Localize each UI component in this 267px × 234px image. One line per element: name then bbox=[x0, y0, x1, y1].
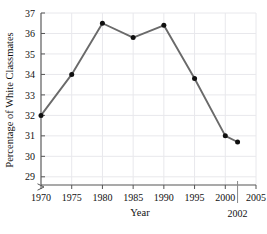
data-point-1990 bbox=[161, 23, 166, 28]
x-tick-label-1970: 1970 bbox=[31, 192, 51, 203]
line-chart: 293031323334353637 197019751980198519901… bbox=[0, 0, 267, 234]
x-tick-label-2000: 2000 bbox=[215, 192, 235, 203]
data-point-1975 bbox=[69, 72, 74, 77]
y-tick-label-31: 31 bbox=[25, 130, 35, 141]
chart-canvas: 293031323334353637 197019751980198519901… bbox=[0, 0, 267, 234]
y-axis-tick-labels: 293031323334353637 bbox=[25, 8, 35, 183]
x-tick-label-1990: 1990 bbox=[154, 192, 174, 203]
x-tick-label-1985: 1985 bbox=[123, 192, 143, 203]
data-point-2000 bbox=[223, 133, 228, 138]
y-tick-label-36: 36 bbox=[25, 28, 35, 39]
y-tick-label-33: 33 bbox=[25, 90, 35, 101]
data-point-1985 bbox=[131, 35, 136, 40]
y-tick-label-34: 34 bbox=[25, 69, 35, 80]
x-tick-label-2005: 2005 bbox=[246, 192, 266, 203]
data-point-1995 bbox=[192, 76, 197, 81]
data-point-1970 bbox=[39, 113, 44, 118]
data-point-2002 bbox=[235, 140, 240, 145]
x-axis-title: Year bbox=[130, 207, 150, 218]
y-tick-label-30: 30 bbox=[25, 151, 35, 162]
x-tick-label-1995: 1995 bbox=[185, 192, 205, 203]
y-tick-label-29: 29 bbox=[25, 171, 35, 182]
data-point-1980 bbox=[100, 21, 105, 26]
x-tick-label-1980: 1980 bbox=[92, 192, 112, 203]
x-tick-label-1975: 1975 bbox=[62, 192, 82, 203]
annotation-label-2002: 2002 bbox=[228, 208, 248, 219]
y-axis-title: Percentage of White Classmates bbox=[4, 32, 15, 167]
y-tick-label-37: 37 bbox=[25, 8, 35, 19]
y-tick-label-32: 32 bbox=[25, 110, 35, 121]
y-tick-label-35: 35 bbox=[25, 49, 35, 60]
